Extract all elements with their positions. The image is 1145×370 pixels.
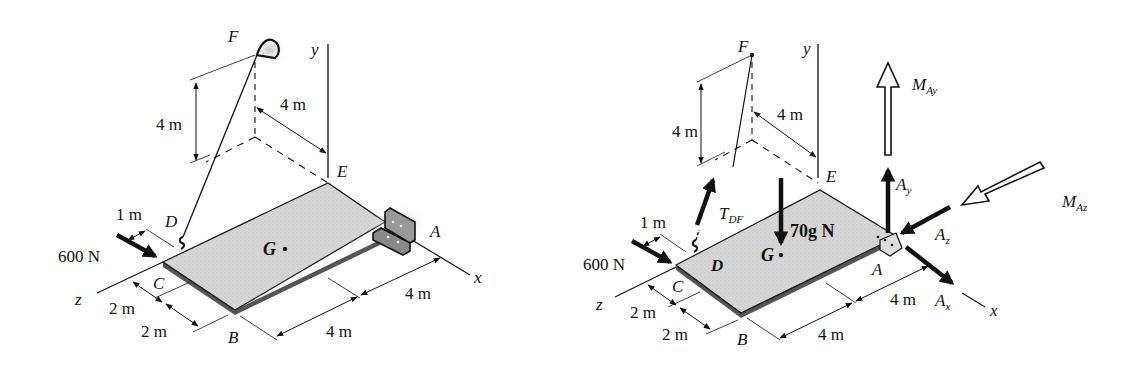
- MAz-couple-arrow: [962, 162, 1044, 205]
- dim-label-C-to-D: 1 m: [640, 213, 666, 232]
- projection-dashed-left: [715, 140, 752, 160]
- x-axis: [962, 293, 985, 307]
- figure-canvas: F y E D A C B x z G 600 N 4 m 4 m 1 m 2 …: [0, 0, 1145, 370]
- Ax-arrow: [906, 247, 952, 283]
- center-of-gravity-dot: [283, 247, 287, 251]
- dim-ext: [328, 278, 360, 298]
- label-z: z: [595, 295, 603, 314]
- label-E: E: [336, 162, 348, 181]
- label-G: G: [761, 245, 774, 265]
- label-A: A: [429, 222, 441, 241]
- projection-dashed-to-E: [255, 137, 328, 183]
- label-B: B: [737, 330, 748, 349]
- tension-arrow: [697, 180, 713, 225]
- dim-ext: [660, 234, 686, 252]
- label-E: E: [825, 167, 837, 186]
- dim-label-z-seg2: 2 m: [141, 322, 167, 341]
- dim-label-x-seg1: 4 m: [818, 325, 844, 344]
- label-F: F: [227, 27, 239, 46]
- dim-label-C-to-D: 1 m: [116, 205, 142, 224]
- hook-D: [180, 237, 184, 249]
- label-A: A: [871, 260, 883, 279]
- dim-ext: [240, 316, 277, 340]
- dim-label-vertical-F: 4 m: [156, 115, 182, 134]
- center-of-gravity-dot: [779, 253, 783, 257]
- label-D: D: [164, 212, 178, 231]
- dim-label-z-seg1: 2 m: [109, 299, 135, 318]
- dim-label-z-seg1: 2 m: [630, 303, 656, 322]
- dashed-cable: [696, 230, 699, 240]
- dim-C-to-D: [128, 231, 145, 240]
- label-G: G: [263, 239, 276, 259]
- dim-label-F-to-y: 4 m: [280, 95, 306, 114]
- Ay-label: Ay: [895, 175, 911, 196]
- hook-D: [693, 240, 697, 252]
- dim-label-F-to-y: 4 m: [777, 105, 803, 124]
- dim-label-x-seg2: 4 m: [405, 284, 431, 303]
- dim-F-to-y: [257, 108, 326, 153]
- dim-z-seg2: [166, 304, 198, 326]
- dim-label-x-seg2: 4 m: [890, 290, 916, 309]
- label-F: F: [737, 37, 749, 56]
- label-x: x: [473, 268, 482, 287]
- dim-ext: [190, 55, 255, 80]
- load-label: 600 N: [58, 247, 100, 266]
- label-B: B: [228, 328, 239, 347]
- label-C: C: [153, 274, 165, 293]
- projection-dashed-to-E: [752, 140, 818, 183]
- dim-label-x-seg1: 4 m: [326, 322, 352, 341]
- right-diagram: F y E D A C B x z G 70g N 600 N TDF Ay M…: [583, 37, 1088, 349]
- tension-label: TDF: [719, 204, 743, 225]
- load-label: 600 N: [583, 255, 625, 274]
- MAz-label: MAz: [1061, 192, 1088, 213]
- load-arrow: [117, 235, 155, 256]
- Az-label: Az: [934, 225, 950, 246]
- dim-C-to-D: [643, 237, 660, 246]
- load-arrow: [632, 241, 670, 262]
- label-x: x: [989, 301, 998, 320]
- label-y: y: [801, 39, 811, 58]
- dim-ext: [826, 283, 856, 303]
- MAy-label: MAy: [911, 75, 937, 96]
- dim-ext: [706, 320, 738, 334]
- label-D: D: [710, 256, 723, 275]
- dim-label-vertical-F: 4 m: [672, 122, 698, 141]
- dim-ext: [697, 55, 752, 82]
- label-y: y: [309, 40, 319, 59]
- label-z: z: [74, 290, 82, 309]
- dim-ext: [747, 318, 780, 340]
- Ax-label: Ax: [934, 291, 950, 312]
- dim-ext: [146, 229, 174, 247]
- projection-dashed-left: [206, 137, 255, 162]
- cable-DF: [183, 55, 257, 237]
- dim-ext: [193, 315, 228, 332]
- dim-label-z-seg2: 2 m: [662, 325, 688, 344]
- x-axis: [412, 240, 470, 275]
- label-C: C: [672, 277, 684, 296]
- left-diagram: F y E D A C B x z G 600 N 4 m 4 m 1 m 2 …: [58, 27, 482, 347]
- weight-label: 70g N: [790, 221, 835, 241]
- cable-DF: [733, 55, 752, 167]
- MAy-couple-arrow: [877, 63, 899, 155]
